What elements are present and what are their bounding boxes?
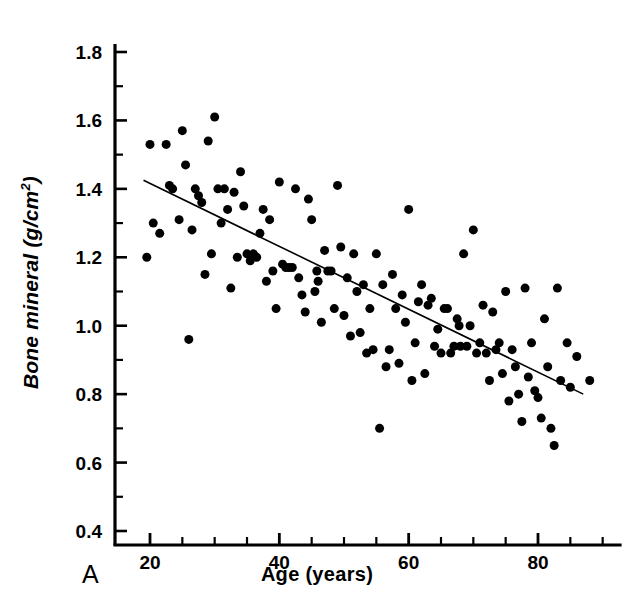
data-point — [265, 215, 274, 224]
data-point — [226, 284, 235, 293]
data-point — [414, 297, 423, 306]
data-point — [369, 345, 378, 354]
data-point — [394, 359, 403, 368]
data-point — [149, 219, 158, 228]
data-point — [307, 215, 316, 224]
data-point — [455, 321, 464, 330]
data-point — [349, 249, 358, 258]
data-point — [310, 287, 319, 296]
data-point — [239, 201, 248, 210]
data-point — [288, 263, 297, 272]
data-point — [317, 318, 326, 327]
data-point — [294, 273, 303, 282]
data-point — [485, 376, 494, 385]
data-point — [233, 253, 242, 262]
data-point — [333, 181, 342, 190]
data-point — [514, 390, 523, 399]
data-point — [178, 126, 187, 135]
data-point — [301, 308, 310, 317]
data-point — [511, 362, 520, 371]
data-point — [430, 342, 439, 351]
data-point — [466, 321, 475, 330]
data-point — [537, 414, 546, 423]
y-axis-label: Bone mineral (g/cm2) — [18, 83, 43, 483]
data-point — [495, 338, 504, 347]
data-point — [272, 304, 281, 313]
y-tick-label: 0.4 — [76, 521, 103, 542]
y-axis-label-main: Bone mineral (g/cm — [19, 191, 42, 389]
data-point — [314, 277, 323, 286]
data-point — [146, 140, 155, 149]
data-point — [572, 352, 581, 361]
data-point — [527, 338, 536, 347]
data-point — [534, 393, 543, 402]
data-point — [162, 140, 171, 149]
data-point — [220, 184, 229, 193]
data-point — [155, 229, 164, 238]
data-point — [401, 318, 410, 327]
data-point — [420, 369, 429, 378]
data-point — [553, 284, 562, 293]
data-point — [223, 205, 232, 214]
y-tick-label: 1.8 — [76, 42, 102, 63]
data-point — [372, 249, 381, 258]
y-axis-label-close: ) — [19, 176, 42, 183]
y-tick-label: 1.4 — [76, 179, 103, 200]
data-point — [385, 345, 394, 354]
data-point — [184, 335, 193, 344]
y-tick-label: 1.0 — [76, 316, 102, 337]
data-point — [469, 225, 478, 234]
data-point — [142, 253, 151, 262]
data-point — [427, 294, 436, 303]
data-point — [168, 184, 177, 193]
data-point — [521, 284, 530, 293]
data-point — [482, 349, 491, 358]
data-point — [472, 349, 481, 358]
data-point — [268, 266, 277, 275]
regression-line — [144, 180, 584, 394]
data-point — [188, 225, 197, 234]
data-point — [365, 304, 374, 313]
data-point — [252, 253, 261, 262]
panel-label: A — [82, 560, 99, 589]
data-point — [200, 270, 209, 279]
data-point — [443, 304, 452, 313]
data-point — [230, 188, 239, 197]
data-point — [437, 349, 446, 358]
data-point — [504, 396, 513, 405]
data-point — [291, 184, 300, 193]
data-point — [210, 113, 219, 122]
data-point — [546, 424, 555, 433]
data-point — [517, 417, 526, 426]
data-point — [304, 195, 313, 204]
data-point — [236, 167, 245, 176]
data-point — [312, 266, 321, 275]
data-point — [275, 178, 284, 187]
tick-labels: 0.40.60.81.01.21.41.61.820406080 — [76, 42, 549, 573]
data-point — [391, 304, 400, 313]
data-point — [330, 304, 339, 313]
data-point — [336, 243, 345, 252]
data-point — [407, 376, 416, 385]
data-point — [207, 249, 216, 258]
data-point — [543, 362, 552, 371]
data-point — [197, 198, 206, 207]
data-point — [175, 215, 184, 224]
data-point — [508, 345, 517, 354]
data-point — [398, 290, 407, 299]
data-point — [462, 342, 471, 351]
data-point — [411, 338, 420, 347]
data-point — [378, 280, 387, 289]
y-tick-label: 1.6 — [76, 110, 102, 131]
data-point — [488, 308, 497, 317]
data-point — [259, 205, 268, 214]
data-point — [479, 301, 488, 310]
data-point — [297, 290, 306, 299]
data-point — [540, 314, 549, 323]
y-tick-label: 0.8 — [76, 384, 102, 405]
y-axis-label-exponent: 2 — [18, 183, 33, 190]
data-point — [563, 338, 572, 347]
data-point — [388, 270, 397, 279]
data-point — [498, 369, 507, 378]
figure-panel-a: 0.40.60.81.01.21.41.61.820406080 Bone mi… — [0, 0, 634, 600]
